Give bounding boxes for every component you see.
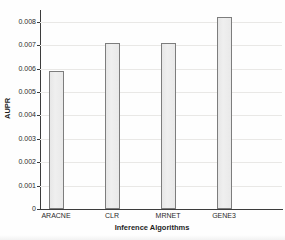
y-tick-mark (37, 186, 40, 187)
x-category-label-mrnet: MRNET (138, 212, 198, 219)
bar-chart-figure: AUPR 00.0010.0020.0030.0040.0050.0060.00… (0, 0, 285, 240)
y-tick-label: 0.008 (0, 18, 36, 26)
y-tick-mark (37, 162, 40, 163)
gridline (40, 22, 282, 23)
x-category-label-gene3: GENE3 (194, 212, 254, 219)
y-tick-mark (37, 92, 40, 93)
y-tick-mark (37, 139, 40, 140)
bar-gene3 (217, 17, 232, 209)
bar-mrnet (161, 43, 176, 209)
bar-aracne (49, 71, 64, 209)
y-tick-label: 0.003 (0, 135, 36, 143)
y-tick-label: 0.005 (0, 88, 36, 96)
y-tick-mark (37, 45, 40, 46)
y-tick-label: 0.007 (0, 41, 36, 49)
y-tick-mark (37, 115, 40, 116)
y-tick-label: 0.001 (0, 182, 36, 190)
x-category-label-aracne: ARACNE (26, 212, 86, 219)
y-tick-label: 0.002 (0, 158, 36, 166)
x-category-label-clr: CLR (82, 212, 142, 219)
y-tick-mark (37, 69, 40, 70)
y-tick-label: 0.004 (0, 111, 36, 119)
scan-artifact (0, 235, 285, 240)
y-tick-mark (37, 209, 40, 210)
y-tick-label: 0.006 (0, 65, 36, 73)
y-tick-mark (37, 22, 40, 23)
bar-clr (105, 43, 120, 209)
x-axis-title: Inference Algorithms (115, 223, 190, 232)
